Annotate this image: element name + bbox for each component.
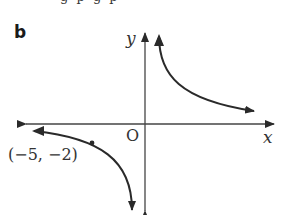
arrowhead-up-icon: [154, 34, 164, 46]
origin-label: O: [126, 126, 139, 145]
curve-branch-quadrant-1: [159, 36, 254, 111]
curve-branch-quadrant-3: [34, 131, 132, 210]
point-marker: [90, 141, 95, 146]
x-axis-label: x: [263, 127, 273, 147]
hyperbola-graph: [0, 0, 282, 215]
arrowhead-left-icon: [32, 126, 44, 136]
point-label: (−5, −2): [8, 145, 78, 164]
y-axis-label: y: [126, 28, 136, 48]
